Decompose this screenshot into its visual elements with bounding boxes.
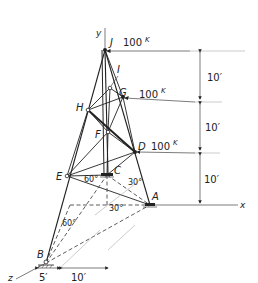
label-A: A (151, 191, 159, 202)
label-D: D (138, 141, 146, 152)
dim-10ft: 10′ (71, 272, 87, 283)
label-E: E (56, 171, 63, 182)
svg-text:100: 100 (139, 89, 158, 100)
label-C: C (114, 165, 121, 176)
svg-text:K: K (145, 36, 151, 44)
node-J (103, 48, 107, 52)
label-J: J (108, 37, 113, 48)
node-F (106, 130, 110, 134)
dim-middle: 10′ (205, 122, 221, 133)
svg-text:K: K (161, 87, 167, 95)
svg-text:100: 100 (151, 141, 170, 152)
truss-members (46, 50, 150, 263)
dim-5ft: 5′ (39, 272, 48, 283)
support-B (38, 260, 54, 268)
label-F: F (95, 129, 101, 140)
support-A (143, 203, 157, 207)
svg-text:100: 100 (123, 37, 142, 48)
svg-text:K: K (173, 139, 179, 147)
label-B: B (37, 249, 44, 260)
space-truss-diagram: y x z (0, 0, 258, 283)
node-D (133, 150, 137, 154)
load-G: 100 K (125, 87, 195, 102)
label-I: I (117, 64, 120, 75)
angle-60-top: 60° (84, 175, 98, 184)
node-H (86, 108, 90, 112)
angle-30-right: 30° (128, 178, 142, 187)
dim-top: 10′ (207, 72, 223, 83)
base-dimensions: 5′ 10′ (38, 268, 108, 283)
label-G: G (119, 87, 127, 98)
z-axis-label: z (7, 273, 13, 283)
angle-60-bottom: 60° (62, 219, 76, 228)
y-axis-label: y (95, 28, 102, 38)
x-axis-label: x (239, 200, 246, 210)
angle-30-bottom: 30° (109, 204, 123, 213)
node-I (108, 86, 112, 90)
node-E (65, 174, 69, 178)
vertical-dimensions: 10′ 10′ 10′ (200, 52, 223, 203)
load-J: 100 K (107, 36, 190, 51)
label-H: H (76, 102, 84, 113)
dim-bottom: 10′ (204, 174, 220, 185)
